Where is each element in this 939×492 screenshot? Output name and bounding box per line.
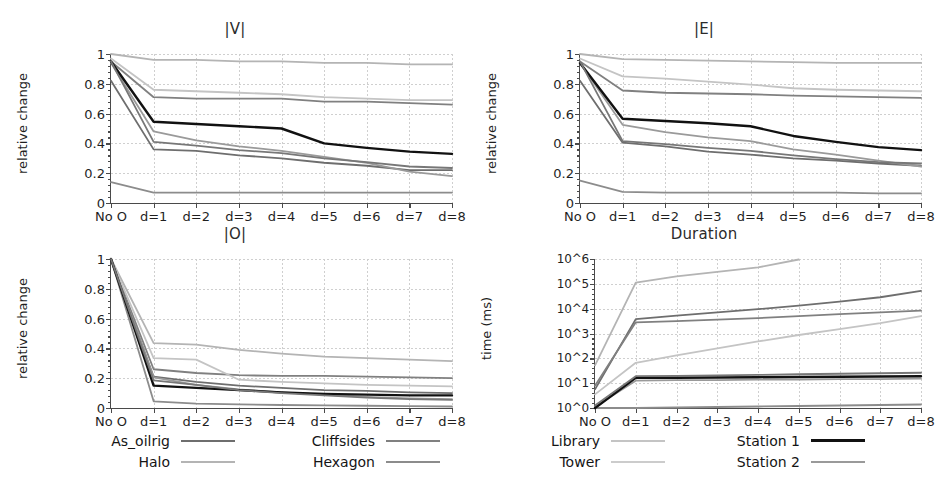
y-tick-label: 0.2 (553, 167, 574, 180)
x-tick-label: d=1 (140, 415, 167, 428)
legend-item-swatch (181, 440, 235, 442)
panel-e-plot: 00.20.40.60.81No Od=1d=2d=3d=4d=5d=6d=7d… (579, 54, 921, 204)
y-tick-label: 10^5 (557, 278, 589, 290)
x-tick-mark (878, 203, 879, 208)
x-tick-label: d=7 (865, 210, 892, 223)
x-tick-mark (799, 408, 800, 413)
x-tick-label: d=3 (704, 415, 731, 428)
y-tick-label: 0.8 (84, 77, 105, 90)
x-tick-label: d=7 (396, 210, 423, 223)
series-line (111, 259, 452, 378)
x-tick-mark (154, 203, 155, 208)
x-tick-label: No O (579, 415, 611, 428)
x-tick-label: d=3 (694, 210, 721, 223)
series-line (111, 259, 452, 386)
x-tick-label: d=4 (268, 415, 295, 428)
x-tick-mark (840, 408, 841, 413)
x-tick-label: d=8 (907, 210, 934, 223)
panel-duration: Duration time (ms) 10^010^110^210^310^41… (469, 225, 939, 435)
y-tick-label: 0.8 (84, 282, 105, 295)
series-line (580, 61, 921, 98)
legend-item-label: Tower (559, 454, 600, 470)
series-layer (595, 259, 921, 408)
panel-duration-plot: 10^010^110^210^310^410^510^6No Od=1d=2d=… (594, 259, 921, 409)
series-line (580, 54, 921, 63)
series-line (595, 379, 921, 407)
legend-item-label: Station 1 (737, 433, 800, 449)
x-tick-mark (409, 203, 410, 208)
legend-item-swatch (611, 440, 665, 442)
legend-item[interactable]: Station 2 (680, 451, 865, 472)
x-tick-mark (367, 408, 368, 413)
legend-item-swatch (181, 461, 235, 463)
y-tick-label: 0.2 (84, 372, 105, 385)
x-tick-mark (282, 203, 283, 208)
x-tick-mark (921, 408, 922, 413)
legend-item-swatch (811, 461, 865, 463)
legend-item[interactable]: Tower (490, 451, 665, 472)
x-tick-label: d=8 (907, 415, 934, 428)
legend-item[interactable]: Halo (50, 451, 235, 472)
panel-o: |O| relative change 00.20.40.60.81No Od=… (0, 225, 470, 435)
legend-item-label: Hexagon (313, 454, 375, 470)
x-tick-mark (111, 203, 112, 208)
panel-o-title: |O| (0, 225, 470, 243)
panel-e-ylabel: relative change (484, 69, 499, 179)
x-tick-mark (665, 203, 666, 208)
x-tick-mark (324, 203, 325, 208)
x-tick-label: No O (564, 210, 596, 223)
y-tick-label: 10^4 (557, 303, 589, 315)
x-tick-label: No O (95, 415, 127, 428)
legend-item-label: Station 2 (737, 454, 800, 470)
x-tick-label: d=7 (867, 415, 894, 428)
x-tick-mark (196, 408, 197, 413)
panel-duration-title: Duration (469, 225, 939, 243)
legend-item[interactable]: Library (490, 430, 665, 451)
x-tick-label: d=2 (663, 415, 690, 428)
y-tick-label: 0.6 (84, 312, 105, 325)
x-tick-label: d=6 (822, 210, 849, 223)
x-tick-mark (239, 408, 240, 413)
series-line (595, 405, 921, 408)
y-tick-label: 0.2 (84, 167, 105, 180)
panel-v: |V| relative change 00.20.40.60.81No Od=… (0, 20, 470, 230)
x-tick-label: d=6 (353, 415, 380, 428)
x-tick-mark (880, 408, 881, 413)
legend-column-2: CliffsidesHexagon (255, 430, 440, 472)
panel-o-plot: 00.20.40.60.81No Od=1d=2d=3d=4d=5d=6d=7d… (110, 259, 452, 409)
y-tick-label: 1 (97, 253, 105, 266)
x-tick-label: d=3 (225, 415, 252, 428)
x-tick-mark (623, 203, 624, 208)
y-tick-label: 0.6 (553, 107, 574, 120)
series-layer (111, 259, 452, 408)
series-line (111, 182, 452, 192)
legend-column-4: Station 1Station 2 (680, 430, 865, 472)
x-tick-label: d=5 (310, 210, 337, 223)
y-tick-label: 1 (97, 48, 105, 61)
y-tick-label: 0.8 (553, 77, 574, 90)
x-tick-mark (367, 203, 368, 208)
x-tick-mark (111, 408, 112, 413)
x-tick-label: d=5 (785, 415, 812, 428)
series-line (111, 54, 452, 64)
legend-column-3: LibraryTower (490, 430, 665, 472)
panel-e: |E| relative change 00.20.40.60.81No Od=… (469, 20, 939, 230)
series-layer (111, 54, 452, 203)
legend-item-label: Halo (138, 454, 170, 470)
x-tick-mark (452, 203, 453, 208)
x-tick-mark (239, 203, 240, 208)
x-tick-mark (282, 408, 283, 413)
figure-canvas: |V| relative change 00.20.40.60.81No Od=… (0, 0, 939, 492)
x-tick-label: d=1 (140, 210, 167, 223)
legend-item[interactable]: Hexagon (255, 451, 440, 472)
series-line (111, 61, 452, 153)
legend-item[interactable]: As_oilrig (50, 430, 235, 451)
x-tick-mark (452, 408, 453, 413)
x-tick-mark (836, 203, 837, 208)
legend-item-label: Cliffsides (312, 433, 375, 449)
panel-v-title: |V| (0, 20, 470, 38)
legend-item[interactable]: Station 1 (680, 430, 865, 451)
y-tick-label: 10^0 (557, 402, 589, 414)
x-tick-label: d=7 (396, 415, 423, 428)
legend-item[interactable]: Cliffsides (255, 430, 440, 451)
